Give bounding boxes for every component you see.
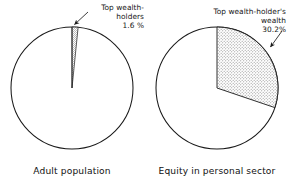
pie-chart-equity-personal-sector xyxy=(156,27,278,149)
annotation-right-wealth-holders: Top wealth-holder's wealth 30.2% xyxy=(196,7,286,35)
caption-adult-population: Adult population xyxy=(11,166,133,176)
annotation-left-wealth-holders: Top wealth- holders 1.6 % xyxy=(78,3,144,31)
caption-equity-personal-sector: Equity in personal sector xyxy=(150,166,284,176)
pie-chart-adult-population xyxy=(11,27,133,149)
pie-chart-figure: Top wealth- holders 1.6 % Top wealth-hol… xyxy=(0,0,295,186)
